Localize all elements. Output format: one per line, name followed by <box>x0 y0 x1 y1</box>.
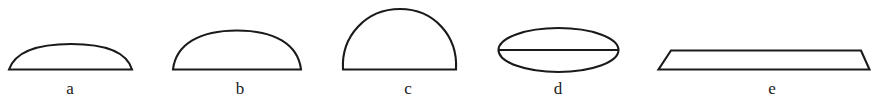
shape-b-half-dome <box>173 31 301 70</box>
shape-label-e: e <box>768 80 776 97</box>
shape-label-d: d <box>554 80 563 97</box>
shape-series-figure: a b c d e <box>0 0 877 108</box>
shape-label-b: b <box>236 80 245 97</box>
shape-e-flat-trapezoid <box>659 51 870 70</box>
shape-a-shallow-dome <box>9 44 132 70</box>
shape-drawing-canvas <box>0 0 877 108</box>
shape-c-tall-dome <box>343 9 456 70</box>
shape-label-a: a <box>66 80 74 97</box>
shape-label-c: c <box>404 80 412 97</box>
